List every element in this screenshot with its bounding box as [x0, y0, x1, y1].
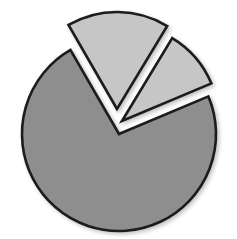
pie-chart: [0, 0, 237, 239]
pie-slices: [22, 12, 216, 231]
